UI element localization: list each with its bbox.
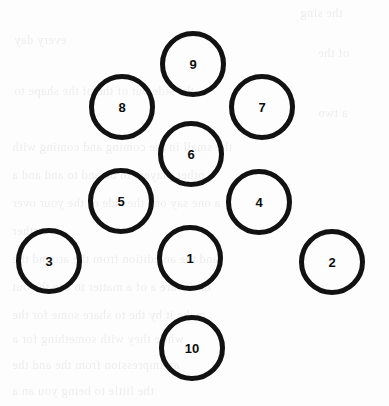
circle-label: 9: [189, 58, 196, 71]
circle-label: 5: [117, 195, 124, 208]
circle-label: 4: [255, 196, 262, 209]
circle-label: 2: [328, 256, 335, 269]
circle-label: 6: [187, 148, 194, 161]
circle-6[interactable]: 6: [158, 121, 224, 187]
circle-1[interactable]: 1: [157, 225, 223, 291]
circle-2[interactable]: 2: [299, 229, 365, 295]
circle-10[interactable]: 10: [159, 315, 225, 381]
circle-label: 7: [258, 101, 265, 114]
circle-9[interactable]: 9: [160, 31, 226, 97]
circle-4[interactable]: 4: [226, 169, 292, 235]
circle-3[interactable]: 3: [16, 228, 82, 294]
circle-8[interactable]: 8: [89, 74, 155, 140]
figure-canvas: the singevery dayof thethe side out of t…: [0, 0, 389, 406]
circle-7[interactable]: 7: [229, 74, 295, 140]
circle-label: 3: [45, 255, 52, 268]
circle-label: 10: [185, 342, 199, 355]
circle-5[interactable]: 5: [88, 168, 154, 234]
circle-label: 1: [186, 252, 193, 265]
circle-layer: 98765431210: [0, 0, 389, 406]
circle-label: 8: [118, 101, 125, 114]
